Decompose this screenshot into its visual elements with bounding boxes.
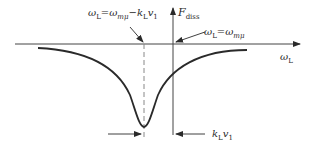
y-axis-label: Fdiss [177, 6, 200, 21]
shifted-label-pointer [130, 27, 143, 42]
x-axis-label: ωL [280, 51, 293, 65]
resonance-label: ωL=ωmμ [204, 26, 245, 40]
dissipation-curve [38, 48, 247, 127]
shifted-resonance-label: ωL=ωmμ−kLv1 [88, 7, 158, 21]
resonance-label-pointer [176, 32, 205, 42]
resonance-diagram: Fdiss ωL ωL=ωmμ−kLv1 ωL=ωmμ kLv1 [0, 0, 313, 150]
shift-label: kLv1 [212, 128, 233, 142]
